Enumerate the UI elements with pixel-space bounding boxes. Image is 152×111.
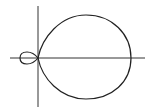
outer-loop-curve: [38, 15, 131, 99]
polar-curve-figure: [0, 0, 152, 111]
